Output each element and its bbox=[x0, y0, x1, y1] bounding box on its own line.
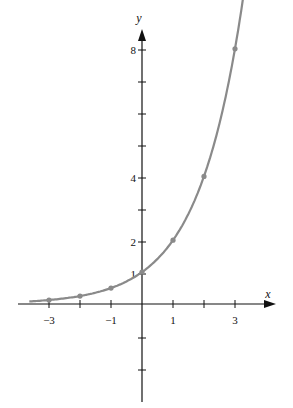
x-tick-label: 1 bbox=[170, 314, 176, 326]
x-axis-label: x bbox=[264, 287, 271, 301]
data-point bbox=[77, 293, 82, 298]
data-point bbox=[201, 174, 206, 179]
exponential-chart: −3 −1 1 3 1 2 4 8 x y bbox=[0, 0, 293, 408]
data-point bbox=[170, 238, 175, 243]
x-tick-label: 3 bbox=[232, 314, 238, 326]
y-tick-label: 2 bbox=[131, 236, 137, 248]
x-tick-label: −3 bbox=[43, 314, 55, 326]
data-point bbox=[232, 46, 237, 51]
y-axis-arrow-icon bbox=[138, 29, 146, 41]
data-point bbox=[46, 297, 51, 302]
data-point bbox=[139, 270, 144, 275]
x-axis-arrow-icon bbox=[264, 300, 276, 308]
y-axis-label: y bbox=[135, 11, 142, 25]
data-point bbox=[108, 285, 113, 290]
y-tick-label: 8 bbox=[131, 44, 137, 56]
y-tick-label: 4 bbox=[131, 172, 137, 184]
exponential-curve bbox=[30, 0, 249, 301]
x-tick-label: −1 bbox=[105, 314, 117, 326]
